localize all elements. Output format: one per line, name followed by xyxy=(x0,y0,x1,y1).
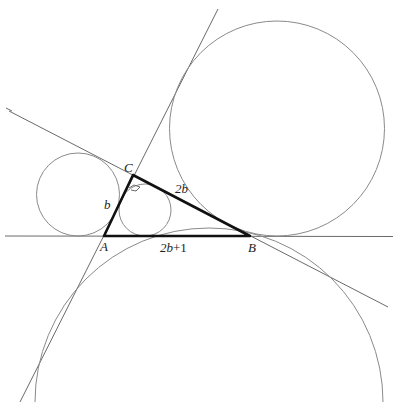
excircle-left xyxy=(37,153,120,236)
label-side-ac: b xyxy=(104,197,111,212)
label-vertex-a: A xyxy=(99,239,108,254)
label-vertex-c: C xyxy=(124,160,133,175)
label-side-cb: 2b xyxy=(175,181,189,196)
label-side-ab-plus: +1 xyxy=(173,240,187,255)
excircle-upper-right xyxy=(170,21,385,236)
dash-mark xyxy=(6,108,12,111)
geometry-diagram: C A B b 2b 2b+1 xyxy=(0,0,398,414)
label-side-ab-coef: 2b xyxy=(160,240,174,255)
excircle-lower xyxy=(35,228,383,402)
label-vertex-b: B xyxy=(248,240,256,255)
label-side-ab: 2b+1 xyxy=(160,240,187,255)
